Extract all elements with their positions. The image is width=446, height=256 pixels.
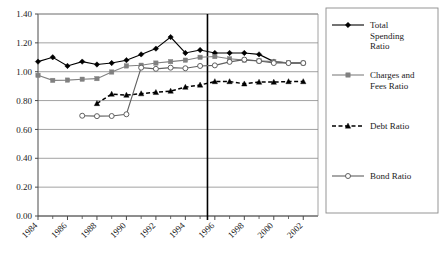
marker-square — [154, 61, 158, 65]
marker-diamond — [80, 59, 85, 64]
marker-circle — [168, 65, 173, 70]
marker-circle — [198, 63, 203, 68]
marker-circle — [80, 113, 85, 118]
marker-square — [65, 78, 69, 82]
marker-circle — [94, 114, 99, 119]
marker-triangle — [109, 91, 114, 96]
line-chart-canvas: 0.000.200.400.600.801.001.201.40 1984198… — [0, 0, 446, 256]
marker-circle — [346, 174, 351, 179]
x-tick-label: 1984 — [20, 220, 40, 240]
marker-square — [109, 70, 113, 74]
x-tick-label: 1992 — [138, 220, 158, 240]
x-tick-label: 1986 — [49, 220, 69, 240]
marker-circle — [242, 57, 247, 62]
legend-box[interactable]: TotalSpendingRatioCharges andFees RatioD… — [326, 8, 438, 213]
x-tick-label: 1998 — [226, 220, 246, 240]
marker-circle — [286, 61, 291, 66]
marker-square — [198, 55, 202, 59]
marker-square — [213, 54, 217, 58]
series-debt-ratio — [94, 79, 306, 106]
marker-square — [95, 76, 99, 80]
chart-figure: 0.000.200.400.600.801.001.201.40 1984198… — [0, 0, 446, 256]
legend-label: Bond Ratio — [370, 171, 412, 181]
y-tick-label: 0.60 — [16, 125, 32, 135]
marker-circle — [153, 66, 158, 71]
marker-circle — [257, 59, 262, 64]
marker-diamond — [138, 52, 143, 57]
marker-diamond — [197, 47, 202, 52]
marker-circle — [109, 114, 114, 119]
marker-square — [124, 64, 128, 68]
marker-square — [183, 58, 187, 62]
legend-label: Ratio — [370, 41, 390, 51]
y-tick-label: 0.20 — [16, 182, 32, 192]
marker-circle — [212, 63, 217, 68]
marker-diamond — [256, 52, 261, 57]
series-bond-ratio — [80, 57, 306, 119]
legend-label: Debt Ratio — [370, 121, 410, 131]
x-tick-label: 2000 — [255, 220, 275, 240]
marker-square — [36, 73, 40, 77]
marker-diamond — [109, 60, 114, 65]
marker-square — [80, 77, 84, 81]
y-tick-label: 1.00 — [16, 67, 32, 77]
x-tick-label: 1988 — [79, 220, 99, 240]
y-tick-label: 0.00 — [16, 211, 32, 221]
marker-circle — [139, 65, 144, 70]
y-tick-label: 0.80 — [16, 96, 32, 106]
marker-circle — [124, 112, 129, 117]
marker-square — [346, 73, 350, 77]
legend-label: Fees Ratio — [370, 81, 409, 91]
x-tick-label: 1994 — [167, 220, 187, 240]
x-tick-label: 2002 — [285, 220, 305, 240]
y-tick-label: 1.20 — [16, 38, 32, 48]
marker-circle — [183, 66, 188, 71]
marker-diamond — [50, 55, 55, 60]
marker-diamond — [124, 57, 129, 62]
marker-circle — [271, 61, 276, 66]
marker-diamond — [35, 59, 40, 64]
series-line — [82, 60, 303, 117]
marker-diamond — [94, 62, 99, 67]
marker-circle — [227, 59, 232, 64]
legend-label: Spending — [370, 31, 405, 41]
y-axis-tick-labels: 0.000.200.400.600.801.001.201.40 — [16, 9, 38, 221]
x-axis-tick-labels: 1984198619881990199219941996199820002002 — [20, 216, 305, 240]
marker-square — [168, 59, 172, 63]
marker-diamond — [227, 50, 232, 55]
x-tick-label: 1990 — [108, 220, 128, 240]
marker-square — [51, 78, 55, 82]
x-tick-label: 1996 — [196, 220, 216, 240]
legend-label: Charges and — [370, 70, 415, 80]
y-tick-label: 0.40 — [16, 153, 32, 163]
y-tick-label: 1.40 — [16, 9, 32, 19]
legend-label: Total — [370, 20, 389, 30]
marker-circle — [301, 61, 306, 66]
marker-diamond — [65, 63, 70, 68]
marker-diamond — [242, 50, 247, 55]
data-series-group — [35, 34, 306, 118]
